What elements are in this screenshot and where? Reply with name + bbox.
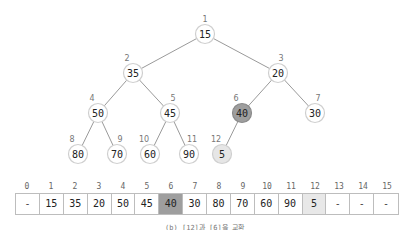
- tree-node: 151: [196, 15, 215, 44]
- node-index-label: 9: [117, 135, 122, 144]
- array-index-row: 0123456789101112131415: [15, 181, 399, 193]
- array-cell: 45: [135, 194, 159, 214]
- node-value: 15: [199, 29, 211, 40]
- tree-node: 455: [161, 94, 180, 123]
- node-value: 20: [272, 68, 284, 79]
- array-index-label: 12: [303, 181, 327, 193]
- array-cell: 90: [279, 194, 303, 214]
- array-index-label: 6: [159, 181, 183, 193]
- node-index-label: 2: [124, 54, 129, 63]
- node-index-label: 6: [233, 94, 238, 103]
- heap-array: 0123456789101112131415 -1535205045403080…: [15, 181, 399, 215]
- node-value: 50: [92, 108, 104, 119]
- node-value: 90: [183, 149, 195, 160]
- array-cell: 30: [183, 194, 207, 214]
- node-value: 80: [72, 149, 84, 160]
- tree-node: 203: [269, 54, 288, 83]
- node-index-label: 8: [69, 135, 74, 144]
- node-index-label: 3: [278, 54, 283, 63]
- array-index-label: 4: [111, 181, 135, 193]
- heap-tree: 15135220350445540630780870960109011512: [0, 0, 409, 180]
- array-cell: 5: [303, 194, 327, 214]
- tree-edge: [205, 34, 278, 73]
- array-cell: 15: [40, 194, 64, 214]
- array-index-label: 0: [15, 181, 39, 193]
- figure-caption: (b) [12]과 [6]을 교환: [0, 222, 409, 230]
- node-index-label: 5: [170, 94, 175, 103]
- tree-nodes: 15135220350445540630780870960109011512: [69, 15, 325, 164]
- node-index-label: 1: [202, 15, 207, 24]
- tree-node: 504: [89, 94, 108, 123]
- array-index-label: 13: [327, 181, 351, 193]
- array-cell: 60: [255, 194, 279, 214]
- array-index-label: 7: [183, 181, 207, 193]
- tree-node: 352: [124, 54, 143, 83]
- array-cell: 80: [207, 194, 231, 214]
- array-index-label: 8: [207, 181, 231, 193]
- tree-node: 406: [233, 94, 252, 123]
- array-index-label: 1: [39, 181, 63, 193]
- node-index-label: 11: [187, 135, 197, 144]
- node-value: 45: [164, 108, 176, 119]
- tree-node: 307: [306, 94, 325, 123]
- tree-node: 512: [211, 135, 232, 164]
- tree-node: 6010: [139, 135, 160, 164]
- array-cell: 35: [64, 194, 88, 214]
- array-cell: 50: [112, 194, 136, 214]
- node-value: 30: [309, 108, 321, 119]
- array-cell: 20: [88, 194, 112, 214]
- array-index-label: 5: [135, 181, 159, 193]
- array-cell: 70: [231, 194, 255, 214]
- tree-edge: [133, 34, 205, 73]
- array-index-label: 3: [87, 181, 111, 193]
- array-index-label: 14: [351, 181, 375, 193]
- node-index-label: 4: [89, 94, 94, 103]
- node-value: 35: [127, 68, 139, 79]
- node-value: 70: [111, 149, 123, 160]
- node-index-label: 7: [315, 94, 320, 103]
- array-index-label: 9: [231, 181, 255, 193]
- array-index-label: 11: [279, 181, 303, 193]
- node-index-label: 12: [211, 135, 221, 144]
- node-index-label: 10: [139, 135, 149, 144]
- array-cell: -: [350, 194, 374, 214]
- array-cell: -: [16, 194, 40, 214]
- array-cell: -: [374, 194, 398, 214]
- node-value: 5: [219, 149, 225, 160]
- array-cell: 40: [159, 194, 183, 214]
- array-cell: -: [326, 194, 350, 214]
- array-cell-row: -15352050454030807060905---: [15, 193, 399, 215]
- array-index-label: 10: [255, 181, 279, 193]
- array-index-label: 2: [63, 181, 87, 193]
- node-value: 60: [144, 149, 156, 160]
- array-index-label: 15: [375, 181, 399, 193]
- node-value: 40: [236, 108, 248, 119]
